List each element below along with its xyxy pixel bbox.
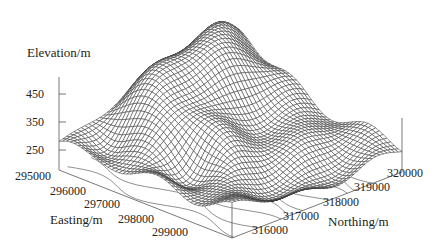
x-tick-label-297000: 297000 [84,198,120,210]
x-tick-label-299000: 299000 [152,226,188,238]
x-tick-label-295000: 295000 [15,170,51,182]
wireframe-mesh [59,22,402,206]
y-tick-label-317000: 317000 [283,210,319,222]
z-tick-label-250: 250 [26,144,44,156]
y-tick-label-318000: 318000 [323,196,359,208]
x-axis-title: Easting/m [50,213,103,226]
z-tick-label-350: 350 [26,116,44,128]
z-axis-title: Elevation/m [27,46,91,59]
y-tick-label-320000: 320000 [387,167,423,179]
y-tick-label-319000: 319000 [354,181,390,193]
x-tick-label-298000: 298000 [118,213,154,225]
z-tick-label-450: 450 [26,88,44,100]
x-tick-label-296000: 296000 [50,185,86,197]
y-axis-title: Northing/m [328,215,389,228]
y-tick-label-316000: 316000 [252,224,288,236]
